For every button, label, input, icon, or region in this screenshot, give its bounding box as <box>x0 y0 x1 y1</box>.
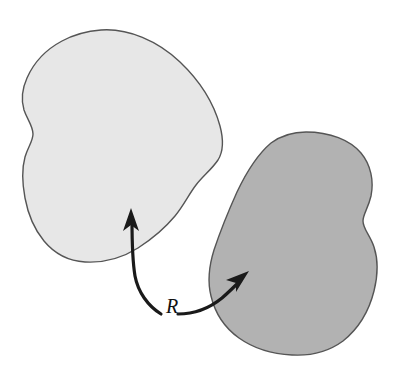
dark-blob <box>209 132 377 355</box>
relation-diagram: R <box>0 0 396 376</box>
relation-label-r: R <box>165 295 178 317</box>
diagram-canvas: R <box>0 0 396 376</box>
light-blob <box>22 30 222 262</box>
